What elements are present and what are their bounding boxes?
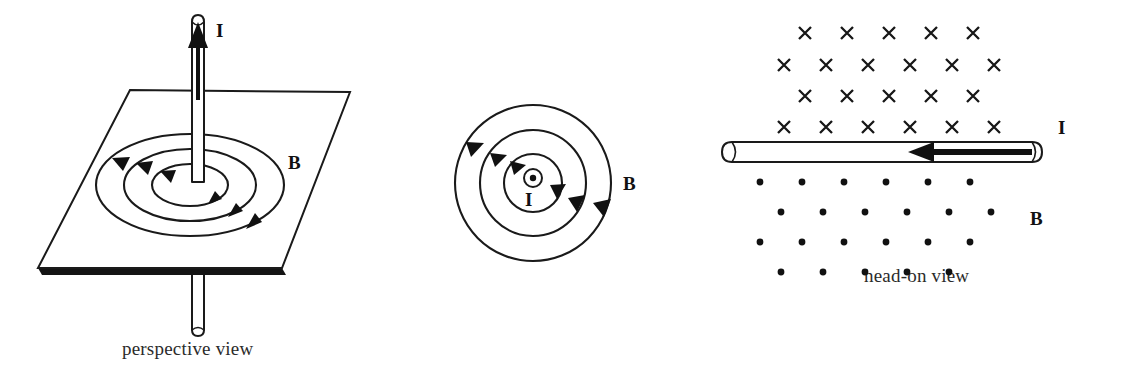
field-label-B: B	[623, 173, 636, 194]
field-label-B: B	[288, 152, 301, 173]
current-label-I: I	[525, 189, 532, 210]
field-out-of-page-dots	[757, 179, 995, 276]
field-label-B: B	[1030, 208, 1043, 229]
side-view-graphic: I B	[710, 0, 1124, 330]
current-out-of-page-symbol	[524, 169, 542, 187]
physics-diagram-figure: B I perspective view	[0, 0, 1124, 378]
field-into-page-crosses	[778, 27, 1000, 133]
panel-side-view: I B side view	[710, 0, 1124, 378]
perspective-view-graphic: B I	[0, 0, 380, 330]
panel-head-on-view: I B head-on view	[380, 0, 710, 378]
panel-perspective-view: B I perspective view	[0, 0, 380, 378]
current-label-I: I	[216, 20, 223, 41]
current-label-I: I	[1058, 117, 1065, 138]
caption-perspective-view: perspective view	[122, 338, 253, 360]
head-on-view-graphic: I B	[380, 0, 710, 280]
